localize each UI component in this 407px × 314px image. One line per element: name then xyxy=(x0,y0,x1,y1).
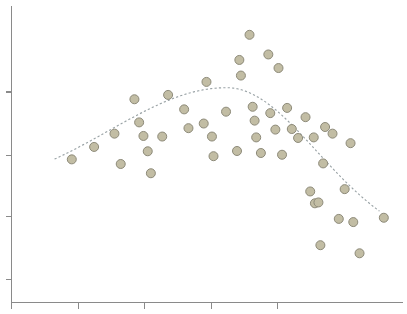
data-point xyxy=(316,241,325,250)
y-axis xyxy=(6,6,12,303)
data-point xyxy=(207,132,216,141)
data-point xyxy=(334,214,343,223)
data-point xyxy=(319,159,328,168)
data-point xyxy=(209,152,218,161)
data-point xyxy=(256,149,265,158)
scatter-plot-figure xyxy=(0,0,407,314)
data-point xyxy=(90,142,99,151)
data-point xyxy=(355,249,364,258)
data-point xyxy=(135,118,144,127)
data-point xyxy=(301,113,310,122)
data-point xyxy=(349,218,358,227)
x-axis xyxy=(12,302,404,309)
data-point xyxy=(222,107,231,116)
data-point xyxy=(202,77,211,86)
data-point xyxy=(236,71,245,80)
data-point xyxy=(139,131,148,140)
data-point xyxy=(184,124,193,133)
data-point xyxy=(130,95,139,104)
data-point xyxy=(346,139,355,148)
data-points-layer xyxy=(67,30,388,257)
trend-line xyxy=(55,88,380,211)
data-point xyxy=(283,103,292,112)
data-point xyxy=(264,50,273,59)
data-point xyxy=(271,125,280,134)
data-point xyxy=(266,109,275,118)
data-point xyxy=(199,119,208,128)
data-point xyxy=(235,55,244,64)
data-point xyxy=(164,90,173,99)
data-point xyxy=(116,159,125,168)
data-point xyxy=(233,146,242,155)
data-point xyxy=(328,129,337,138)
data-point xyxy=(252,133,261,142)
data-point xyxy=(110,129,119,138)
data-point xyxy=(314,198,323,207)
data-point xyxy=(143,147,152,156)
data-point xyxy=(250,116,259,125)
plot-canvas xyxy=(0,0,407,314)
data-point xyxy=(309,133,318,142)
data-point xyxy=(287,125,296,134)
data-point xyxy=(158,132,167,141)
data-point xyxy=(274,64,283,73)
data-point xyxy=(306,187,315,196)
data-point xyxy=(278,150,287,159)
data-point xyxy=(180,105,189,114)
data-point xyxy=(67,155,76,164)
data-point xyxy=(245,30,254,39)
data-point xyxy=(294,133,303,142)
data-point xyxy=(340,185,349,194)
data-point xyxy=(146,169,155,178)
data-point xyxy=(379,213,388,222)
data-point xyxy=(248,102,257,111)
data-point xyxy=(321,123,330,132)
